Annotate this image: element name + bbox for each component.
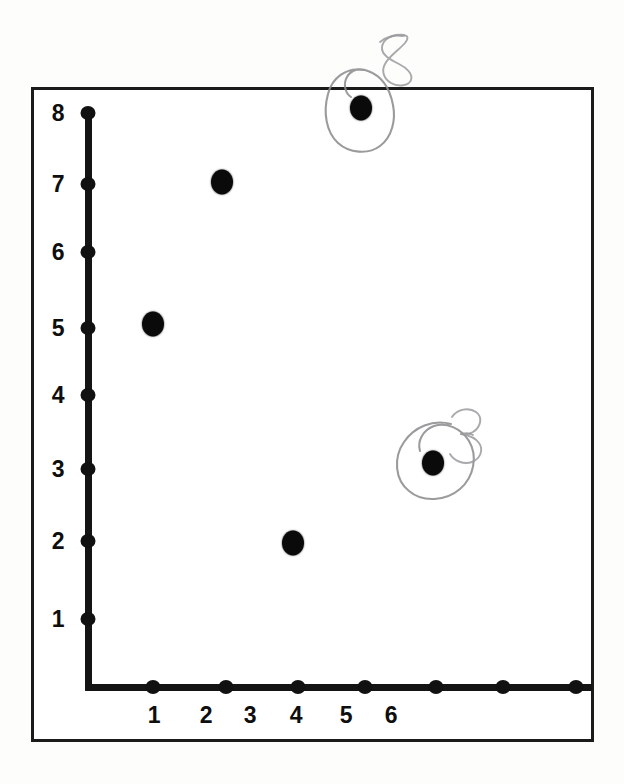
x-axis-tick-dot bbox=[146, 680, 161, 694]
y-axis-tick-label-7: 7 bbox=[52, 173, 65, 196]
x-axis-tick-dot bbox=[496, 680, 511, 694]
y-axis-tick-dot bbox=[81, 177, 96, 191]
data-point-5 bbox=[422, 451, 444, 476]
y-axis-tick-label-5: 5 bbox=[52, 317, 65, 340]
x-axis-tick-label-4: 4 bbox=[290, 704, 303, 727]
y-axis-tick-label-2: 2 bbox=[52, 530, 65, 553]
data-point-2 bbox=[211, 170, 233, 195]
scanned-page: 87654321123456 bbox=[0, 0, 624, 784]
x-axis-tick-dot bbox=[219, 680, 234, 694]
y-axis-tick-dot bbox=[81, 462, 96, 476]
pencil-digit-8 bbox=[368, 30, 420, 88]
plot-frame: 87654321123456 bbox=[31, 87, 594, 742]
data-point-3 bbox=[282, 531, 304, 556]
y-axis-tick-label-8: 8 bbox=[52, 102, 65, 125]
y-axis-tick-dot bbox=[81, 245, 96, 259]
x-axis-tick-label-2: 2 bbox=[200, 704, 213, 727]
y-axis-tick-dot bbox=[81, 388, 96, 402]
y-axis-tick-dot bbox=[81, 612, 96, 626]
x-axis-tick-dot bbox=[569, 680, 584, 694]
x-axis-line bbox=[85, 684, 592, 691]
x-axis-tick-label-3: 3 bbox=[244, 704, 257, 727]
y-axis-tick-dot bbox=[81, 321, 96, 335]
x-axis-tick-dot bbox=[429, 680, 444, 694]
y-axis-tick-label-6: 6 bbox=[52, 241, 65, 264]
x-axis-tick-dot bbox=[358, 680, 373, 694]
y-axis-tick-label-4: 4 bbox=[52, 384, 65, 407]
y-axis-tick-label-1: 1 bbox=[52, 608, 65, 631]
y-axis-tick-dot bbox=[81, 106, 96, 120]
y-axis-tick-label-3: 3 bbox=[52, 458, 65, 481]
x-axis-tick-label-6: 6 bbox=[385, 704, 398, 727]
data-point-4 bbox=[350, 96, 372, 121]
data-point-1 bbox=[142, 312, 164, 337]
x-axis-tick-label-5: 5 bbox=[340, 704, 353, 727]
x-axis-tick-label-1: 1 bbox=[148, 704, 161, 727]
y-axis-tick-dot bbox=[81, 534, 96, 548]
x-axis-tick-dot bbox=[291, 680, 306, 694]
